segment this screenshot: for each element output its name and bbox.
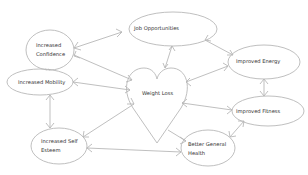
heart-shape [127, 68, 188, 143]
label-improved-fitness: Improved Fitness [236, 107, 280, 115]
label-better-general-health-line2: Health [188, 149, 205, 157]
label-increased-confidence-line1: Increased [36, 41, 61, 49]
label-increased-mobility: Increased Mobility [18, 78, 65, 86]
label-better-general-health-line1: Better General [188, 140, 226, 148]
label-job-opportunities: Job Opportunities [134, 24, 179, 32]
label-increased-confidence-line2: Confidence [36, 50, 65, 58]
label-weight-loss: Weight Loss [142, 89, 173, 97]
node-better-general-health [181, 130, 235, 166]
label-increased-self-esteem-line1: Increased Self [41, 137, 78, 145]
label-improved-energy: Improved Energy [236, 57, 280, 65]
label-increased-self-esteem-line2: Esteem [41, 146, 60, 154]
benefits-diagram: Job Opportunities Increased Confidence I… [0, 0, 308, 175]
